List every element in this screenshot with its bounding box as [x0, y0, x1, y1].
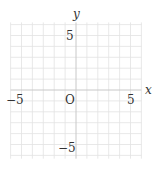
y-axis-label: y	[72, 7, 80, 21]
coordinate-plane: x y O −5 5 5 −5	[0, 0, 159, 171]
y-tick-label-neg5: −5	[58, 141, 76, 155]
axes	[11, 22, 142, 158]
x-axis-label: x	[145, 83, 152, 97]
y-tick-label-5: 5	[66, 29, 74, 43]
origin-label: O	[65, 93, 75, 107]
x-tick-label-neg5: −5	[6, 93, 24, 107]
x-tick-label-5: 5	[127, 93, 135, 107]
